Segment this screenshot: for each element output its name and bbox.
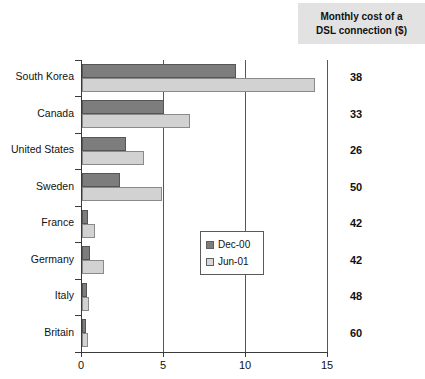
category-label-canada: Canada bbox=[0, 107, 74, 119]
category-label-france: France bbox=[0, 216, 74, 228]
gridline-10 bbox=[245, 60, 246, 352]
bar-dec00-united-states bbox=[82, 137, 126, 151]
value-britain: 60 bbox=[350, 327, 390, 339]
bar-jun01-united-states bbox=[82, 151, 144, 165]
legend-entry-dec00: Dec-00 bbox=[206, 236, 258, 253]
value-germany: 42 bbox=[350, 254, 390, 266]
y-tick-1 bbox=[75, 96, 81, 97]
bar-jun01-france bbox=[82, 224, 95, 238]
bar-jun01-canada bbox=[82, 114, 190, 128]
x-tick-label-10: 10 bbox=[239, 359, 251, 371]
legend-swatch-dec00-icon bbox=[206, 241, 214, 249]
y-tick-8 bbox=[75, 352, 81, 353]
bar-dec00-canada bbox=[82, 100, 164, 114]
y-tick-4 bbox=[75, 206, 81, 207]
x-tick-0 bbox=[81, 352, 82, 357]
y-tick-6 bbox=[75, 279, 81, 280]
gridline-15 bbox=[327, 60, 328, 352]
category-label-italy: Italy bbox=[0, 289, 74, 301]
legend-label-dec00: Dec-00 bbox=[218, 239, 250, 250]
category-label-united-states: United States bbox=[0, 143, 74, 155]
y-tick-0 bbox=[75, 60, 81, 61]
category-label-germany: Germany bbox=[0, 253, 74, 265]
category-label-sweden: Sweden bbox=[0, 180, 74, 192]
y-tick-5 bbox=[75, 242, 81, 243]
x-axis-line bbox=[81, 352, 328, 353]
bar-chart: 0 5 10 15 South Korea Canada United Stat… bbox=[0, 0, 425, 379]
bar-dec00-france bbox=[82, 210, 88, 224]
bar-dec00-sweden bbox=[82, 173, 120, 187]
y-tick-2 bbox=[75, 133, 81, 134]
y-tick-7 bbox=[75, 315, 81, 316]
bar-jun01-germany bbox=[82, 260, 104, 274]
legend-swatch-jun01-icon bbox=[206, 258, 214, 266]
value-italy: 48 bbox=[350, 290, 390, 302]
y-tick-3 bbox=[75, 169, 81, 170]
chart-legend: Dec-00 Jun-01 bbox=[200, 231, 264, 275]
bar-dec00-italy bbox=[82, 283, 87, 297]
value-sweden: 50 bbox=[350, 181, 390, 193]
x-tick-5 bbox=[163, 352, 164, 357]
x-tick-label-15: 15 bbox=[321, 359, 333, 371]
bar-jun01-sweden bbox=[82, 187, 162, 201]
x-tick-15 bbox=[327, 352, 328, 357]
legend-label-jun01: Jun-01 bbox=[218, 256, 249, 267]
bar-jun01-italy bbox=[82, 297, 89, 311]
value-france: 42 bbox=[350, 217, 390, 229]
value-canada: 33 bbox=[350, 108, 390, 120]
value-united-states: 26 bbox=[350, 144, 390, 156]
value-south-korea: 38 bbox=[350, 71, 390, 83]
bar-dec00-britain bbox=[82, 319, 86, 333]
x-tick-label-5: 5 bbox=[160, 359, 166, 371]
x-tick-label-0: 0 bbox=[78, 359, 84, 371]
legend-entry-jun01: Jun-01 bbox=[206, 253, 258, 270]
bar-jun01-britain bbox=[82, 333, 88, 347]
bar-jun01-south-korea bbox=[82, 78, 315, 92]
category-label-britain: Britain bbox=[0, 326, 74, 338]
category-label-south-korea: South Korea bbox=[0, 70, 74, 82]
bar-dec00-south-korea bbox=[82, 64, 236, 78]
bar-dec00-germany bbox=[82, 246, 90, 260]
x-tick-10 bbox=[245, 352, 246, 357]
